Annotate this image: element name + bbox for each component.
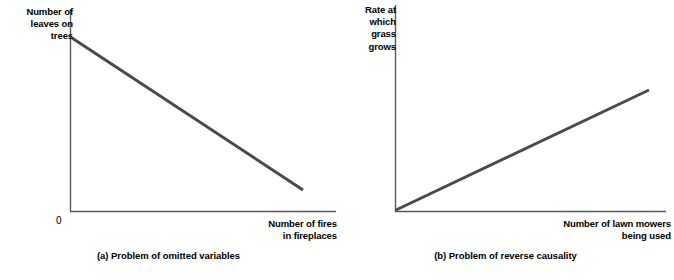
x-axis-label-a: Number of fires in fireplaces bbox=[187, 218, 337, 242]
data-line-positive bbox=[396, 90, 649, 210]
y-axis-label-a: Number of leaves on trees bbox=[0, 6, 73, 43]
figure-container: Number of leaves on trees Number of fire… bbox=[0, 0, 674, 280]
y-axis-label-b: Rate at which grass grows bbox=[276, 4, 396, 53]
panel-a-caption: (a) Problem of omitted variables bbox=[0, 250, 337, 261]
panel-b-caption: (b) Problem of reverse causality bbox=[337, 250, 674, 261]
panel-b: Rate at which grass grows Number of lawn… bbox=[337, 0, 674, 280]
data-line-negative bbox=[72, 38, 303, 190]
x-axis-label-b: Number of lawn mowers being used bbox=[491, 218, 671, 242]
origin-label-a: 0 bbox=[56, 215, 62, 226]
